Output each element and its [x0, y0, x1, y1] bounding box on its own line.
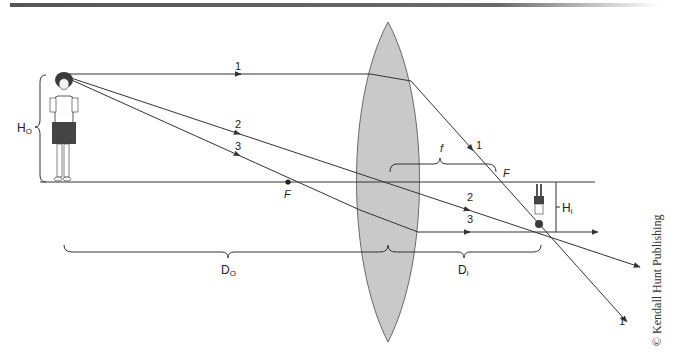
image-height-label: Hi [562, 202, 572, 216]
object-distance-brace [64, 245, 388, 258]
label-main: H [562, 201, 571, 215]
label-main: H [17, 121, 26, 135]
ray-3-label-out: 3 [467, 214, 473, 225]
ray-1-label-in: 1 [235, 61, 241, 72]
image-inverted-figure [534, 184, 544, 228]
object-girl-figure [50, 72, 78, 181]
image-distance-label: Di [458, 264, 468, 278]
object-height-brace [35, 75, 46, 182]
label-main: D [221, 263, 230, 277]
lens-ray-diagram [0, 0, 675, 360]
object-distance-label: DO [221, 264, 236, 278]
object-height-label: HO [17, 122, 32, 136]
ray-2-label-in: 2 [235, 119, 241, 130]
ray-1-label-mid: 1 [476, 140, 482, 151]
image-height-bracket [556, 182, 560, 232]
ray-3-label-in: 3 [235, 141, 241, 152]
ray-2 [65, 76, 640, 267]
label-sub: i [571, 207, 573, 216]
label-sub: i [467, 269, 469, 278]
ray-2-label-out: 2 [467, 192, 473, 203]
copyright-credit: © Kendall Hunt Publishing [650, 215, 665, 346]
label-sub: O [230, 269, 236, 278]
ray-3 [65, 77, 598, 232]
label-main: D [458, 263, 467, 277]
top-bar [10, 3, 660, 7]
focal-point-left [285, 179, 290, 184]
focal-length-label: f [440, 143, 443, 154]
label-sub: O [26, 127, 32, 136]
focal-point-right-label: F [503, 168, 510, 179]
focal-point-left-label: F [284, 189, 291, 200]
ray-1-label-out: 1 [619, 316, 625, 327]
